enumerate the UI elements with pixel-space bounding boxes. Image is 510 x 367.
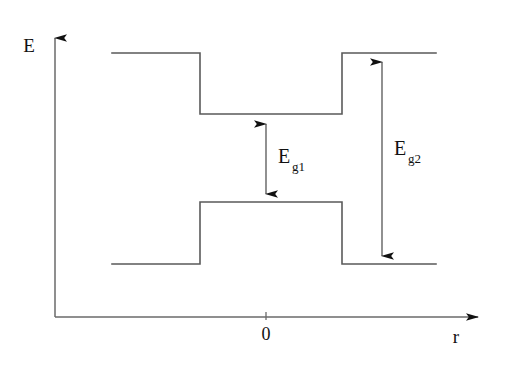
- valence-band-edge: [112, 202, 436, 264]
- eg2-label-subscript: g2: [408, 151, 421, 166]
- y-axis-label: E: [23, 35, 35, 56]
- x-axis-label: r: [453, 326, 460, 347]
- band-gap-eg1-annotation: E g1: [266, 124, 305, 194]
- eg1-label-subscript: g1: [292, 159, 305, 174]
- band-gap-eg2-annotation: E g2: [382, 62, 421, 256]
- eg1-label-base: E: [278, 145, 290, 167]
- eg2-label-base: E: [394, 137, 406, 159]
- origin-tick-label: 0: [262, 324, 271, 344]
- figure-canvas: E r 0 E g1 E g2: [0, 0, 510, 367]
- energy-band-diagram: E r 0 E g1 E g2: [0, 0, 510, 367]
- conduction-band-edge: [112, 53, 436, 114]
